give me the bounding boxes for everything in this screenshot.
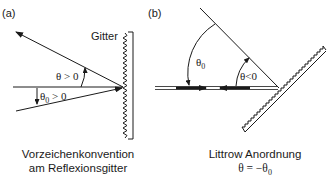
theta0-arc-b (188, 24, 215, 85)
caption-b-line1: Littrow Anordnung (200, 147, 310, 161)
theta-label-b: θ<0 (240, 70, 257, 82)
grating-a (123, 32, 133, 139)
panel-b-label: (b) (148, 7, 161, 19)
theta-arc-a (81, 68, 85, 87)
theta0-label-b: θ0 (196, 56, 205, 71)
caption-a: Vorzeichenkonvention am Reflexionsgitter (8, 147, 148, 175)
caption-b-line2: θ = −θ0 (200, 161, 310, 180)
littrow-beam (155, 87, 278, 90)
panel-a: (a) Gitter θ > 0 θ0 > 0 (2, 7, 133, 139)
caption-a-line1: Vorzeichenkonvention (8, 147, 148, 161)
incident-ray-a (16, 88, 122, 111)
grating-b (242, 46, 326, 132)
caption-a-line2: am Reflexionsgitter (8, 161, 148, 175)
grating-label: Gitter (91, 30, 118, 42)
theta-label-a: θ > 0 (56, 70, 79, 82)
caption-b: Littrow Anordnung θ = −θ0 (200, 147, 310, 180)
panel-b: (b) θ0 θ<0 (148, 7, 326, 132)
panel-a-label: (a) (2, 7, 15, 19)
